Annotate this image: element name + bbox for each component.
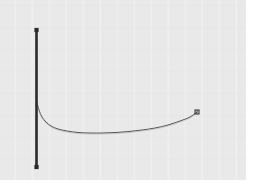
figure-container (0, 0, 253, 196)
axis-bottom-marker (34, 165, 38, 169)
axis-top-marker (34, 28, 38, 32)
page-margin-right (246, 0, 253, 196)
page-margin-bottom (0, 180, 253, 196)
curve-path (37, 103, 197, 133)
plot-svg (0, 0, 253, 196)
